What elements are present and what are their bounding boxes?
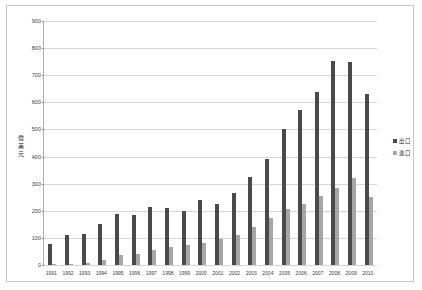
legend-item-export[interactable]: 出口 xyxy=(393,137,411,145)
bar-group-1992[interactable] xyxy=(61,21,78,265)
bar-group-2005[interactable] xyxy=(277,21,294,265)
bar-import-1999[interactable] xyxy=(186,245,190,265)
chart-frame: 億 美 元 9008007006005004003002001000 19911… xyxy=(6,5,414,282)
bar-import-1996[interactable] xyxy=(136,254,140,265)
bar-import-2001[interactable] xyxy=(219,239,223,265)
bar-import-2004[interactable] xyxy=(269,218,273,265)
x-tick-label-2002: 2002 xyxy=(226,270,243,276)
bar-import-1994[interactable] xyxy=(102,260,106,265)
bar-group-2003[interactable] xyxy=(244,21,261,265)
bar-import-1997[interactable] xyxy=(152,250,156,265)
gridline-0 xyxy=(44,265,377,266)
y-tick-label-700: 700 xyxy=(32,72,41,78)
bar-import-2003[interactable] xyxy=(252,227,256,265)
bar-group-1991[interactable] xyxy=(44,21,61,265)
y-tick-label-500: 500 xyxy=(32,126,41,132)
bar-export-1991[interactable] xyxy=(48,244,52,265)
bar-group-1996[interactable] xyxy=(127,21,144,265)
bar-import-2007[interactable] xyxy=(319,196,323,265)
x-tick-label-2005: 2005 xyxy=(276,270,293,276)
y-axis-title-char-3: 元 xyxy=(15,150,27,158)
bar-series-container xyxy=(44,21,377,265)
bar-import-2002[interactable] xyxy=(236,235,240,265)
bar-export-1993[interactable] xyxy=(82,234,86,265)
bar-group-2007[interactable] xyxy=(311,21,328,265)
bar-group-2008[interactable] xyxy=(327,21,344,265)
y-axis-title-char-2: 美 xyxy=(15,142,27,150)
y-tick-label-0: 0 xyxy=(38,262,41,268)
x-tick-label-1996: 1996 xyxy=(126,270,143,276)
bar-group-1998[interactable] xyxy=(161,21,178,265)
bar-group-1995[interactable] xyxy=(111,21,128,265)
bar-group-1994[interactable] xyxy=(94,21,111,265)
y-tick-label-400: 400 xyxy=(32,154,41,160)
bar-group-1993[interactable] xyxy=(77,21,94,265)
y-tick-label-100: 100 xyxy=(32,235,41,241)
bar-import-1998[interactable] xyxy=(169,247,173,265)
legend-item-import[interactable]: 進口 xyxy=(393,149,411,157)
bar-import-2009[interactable] xyxy=(352,178,356,265)
bar-import-1992[interactable] xyxy=(69,264,73,265)
bar-group-1997[interactable] xyxy=(144,21,161,265)
legend-swatch-export-icon xyxy=(393,139,397,143)
y-axis-title: 億 美 元 xyxy=(15,134,27,158)
y-axis-title-char-1: 億 xyxy=(15,134,27,142)
x-tick-label-2010: 2010 xyxy=(359,270,376,276)
y-tick-mark-0 xyxy=(42,265,44,266)
bar-import-1991[interactable] xyxy=(52,264,56,265)
bar-group-2000[interactable] xyxy=(194,21,211,265)
x-tick-label-1992: 1992 xyxy=(60,270,77,276)
x-tick-label-2001: 2001 xyxy=(210,270,227,276)
bar-import-2000[interactable] xyxy=(202,243,206,265)
y-tick-label-600: 600 xyxy=(32,99,41,105)
bar-export-1994[interactable] xyxy=(98,224,102,265)
bar-group-1999[interactable] xyxy=(177,21,194,265)
x-axis-labels: 1991199219931994199519961997199819992000… xyxy=(43,270,376,276)
bar-group-2002[interactable] xyxy=(227,21,244,265)
legend-label-import: 進口 xyxy=(399,149,411,157)
plot-area: 9008007006005004003002001000 xyxy=(43,21,377,266)
x-tick-label-2009: 2009 xyxy=(343,270,360,276)
x-tick-label-1993: 1993 xyxy=(76,270,93,276)
x-tick-label-2003: 2003 xyxy=(243,270,260,276)
x-tick-label-1994: 1994 xyxy=(93,270,110,276)
legend-label-export: 出口 xyxy=(399,137,411,145)
chart-legend: 出口進口 xyxy=(393,137,411,157)
legend-swatch-import-icon xyxy=(393,151,397,155)
x-tick-label-1997: 1997 xyxy=(143,270,160,276)
y-tick-label-800: 800 xyxy=(32,45,41,51)
x-tick-label-2004: 2004 xyxy=(260,270,277,276)
bar-export-1992[interactable] xyxy=(65,235,69,265)
bar-group-2001[interactable] xyxy=(211,21,228,265)
x-tick-label-1999: 1999 xyxy=(176,270,193,276)
bar-import-1993[interactable] xyxy=(86,263,90,265)
bar-group-2010[interactable] xyxy=(360,21,377,265)
x-tick-label-1991: 1991 xyxy=(43,270,60,276)
y-tick-label-200: 200 xyxy=(32,208,41,214)
x-tick-label-2006: 2006 xyxy=(293,270,310,276)
bar-import-2006[interactable] xyxy=(302,204,306,265)
bar-import-2005[interactable] xyxy=(286,209,290,265)
bar-group-2006[interactable] xyxy=(294,21,311,265)
bar-import-2010[interactable] xyxy=(369,197,373,265)
bar-import-1995[interactable] xyxy=(119,255,123,265)
y-tick-label-300: 300 xyxy=(32,181,41,187)
y-tick-label-900: 900 xyxy=(32,18,41,24)
x-tick-label-2008: 2008 xyxy=(326,270,343,276)
x-tick-label-1998: 1998 xyxy=(160,270,177,276)
bar-group-2004[interactable] xyxy=(261,21,278,265)
bar-import-2008[interactable] xyxy=(335,188,339,265)
x-tick-label-2007: 2007 xyxy=(310,270,327,276)
bar-group-2009[interactable] xyxy=(344,21,361,265)
x-tick-label-1995: 1995 xyxy=(110,270,127,276)
x-tick-label-2000: 2000 xyxy=(193,270,210,276)
